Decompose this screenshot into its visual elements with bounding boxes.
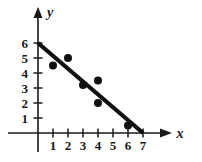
x-axis-arrow-icon	[160, 129, 172, 138]
scatter-plot-figure: 1 2 3 4 5 6 7 1 2 3 4 5 6 x	[0, 0, 202, 162]
data-point	[49, 62, 57, 70]
data-point	[94, 77, 102, 85]
data-point	[124, 122, 132, 130]
y-axis-arrow-icon	[34, 7, 43, 18]
x-tick-label: 4	[95, 138, 102, 153]
data-point	[64, 54, 72, 62]
y-axis-label: y	[45, 5, 54, 20]
data-point	[94, 99, 102, 107]
regression-line	[38, 43, 143, 133]
y-tick-label: 3	[22, 81, 29, 96]
x-tick-label: 6	[125, 138, 132, 153]
x-axis-tick-labels: 1 2 3 4 5 6 7	[50, 138, 147, 153]
x-tick-label: 7	[140, 138, 147, 153]
x-tick-label: 3	[80, 138, 87, 153]
y-tick-label: 6	[22, 36, 29, 51]
y-tick-label: 5	[22, 51, 29, 66]
data-point	[79, 81, 87, 89]
y-tick-label: 2	[22, 96, 29, 111]
chart-canvas: 1 2 3 4 5 6 7 1 2 3 4 5 6 x	[0, 0, 202, 162]
x-tick-label: 2	[65, 138, 72, 153]
y-tick-label: 4	[22, 66, 29, 81]
x-axis-label: x	[176, 126, 184, 141]
y-axis-tick-labels: 1 2 3 4 5 6	[22, 36, 29, 126]
x-tick-label: 5	[110, 138, 117, 153]
x-tick-label: 1	[50, 138, 57, 153]
y-tick-label: 1	[22, 111, 29, 126]
